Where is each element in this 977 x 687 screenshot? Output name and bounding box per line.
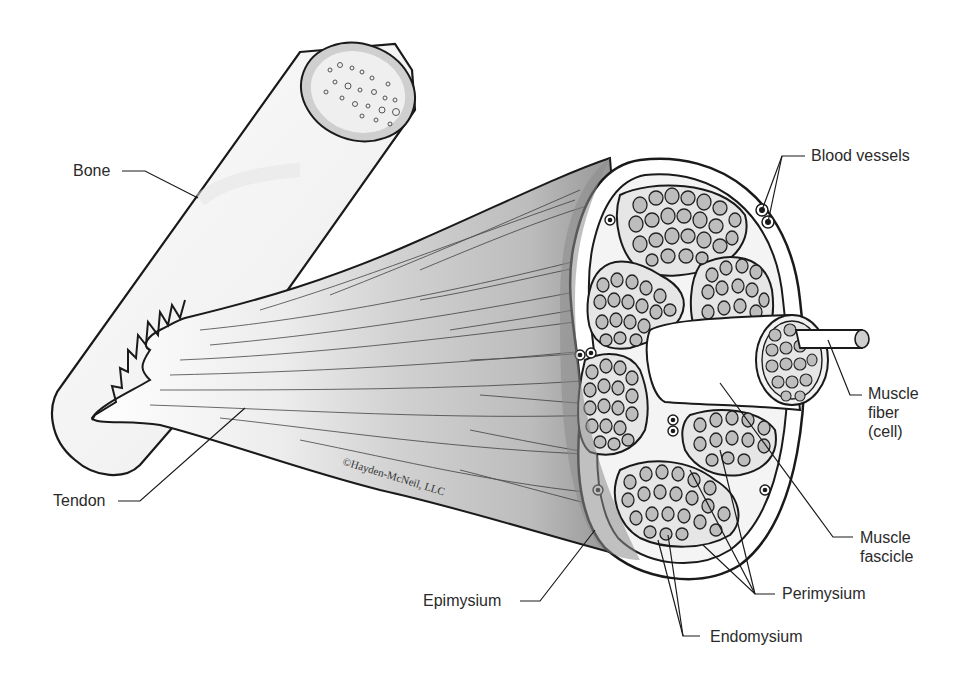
muscle-anatomy-diagram: Bone Tendon Blood vessels Muscle fiber (… <box>0 0 977 687</box>
label-tendon: Tendon <box>53 491 106 510</box>
label-endomysium: Endomysium <box>710 627 802 646</box>
label-epimysium: Epimysium <box>423 591 501 610</box>
pulled-fascicle <box>647 315 869 410</box>
muscle-belly <box>92 158 640 560</box>
label-muscle-fascicle: Muscle fascicle <box>860 528 913 566</box>
label-blood-vessels: Blood vessels <box>811 146 910 165</box>
label-bone: Bone <box>73 161 110 180</box>
label-muscle-fiber: Muscle fiber (cell) <box>868 384 919 441</box>
label-perimysium: Perimysium <box>782 584 866 603</box>
